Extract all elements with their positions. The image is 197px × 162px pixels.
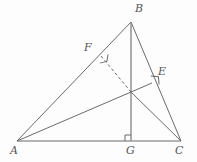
vertex-label-C: C bbox=[175, 145, 183, 156]
right-angle-at-G bbox=[125, 135, 131, 141]
side-BC bbox=[131, 22, 181, 141]
vertex-label-A: A bbox=[10, 145, 18, 156]
geometry-figure: B F E A G C bbox=[0, 0, 197, 162]
vertex-label-F: F bbox=[84, 42, 92, 53]
vertex-label-G: G bbox=[126, 145, 135, 156]
vertex-label-E: E bbox=[158, 66, 166, 77]
geometry-canvas bbox=[0, 0, 197, 162]
side-AB bbox=[17, 22, 131, 141]
vertex-label-B: B bbox=[135, 3, 143, 14]
altitude-AE bbox=[17, 83, 152, 141]
altitude-CF-solid bbox=[131, 92, 181, 141]
